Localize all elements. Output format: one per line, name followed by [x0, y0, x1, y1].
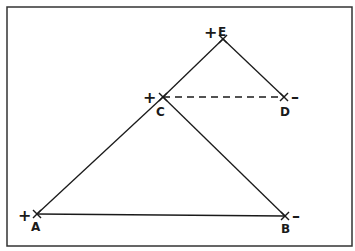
label-b: B [281, 222, 290, 236]
sign-d: – [291, 87, 299, 106]
label-a: A [31, 220, 41, 234]
cross-marker-d [280, 93, 288, 101]
frame-border [7, 7, 352, 246]
segment-a-c [37, 97, 163, 214]
sign-b: – [292, 206, 300, 225]
label-c: C [156, 105, 165, 119]
segment-e-d [223, 39, 284, 97]
sign-a: + [18, 206, 31, 225]
segment-c-e [163, 39, 223, 97]
segment-a-b [37, 214, 285, 216]
sign-c: + [143, 88, 156, 107]
triangle-diagram: A B C D E + – + – + [0, 0, 355, 251]
sign-e: + [204, 23, 217, 42]
segment-c-b [163, 97, 285, 216]
label-d: D [280, 105, 290, 119]
label-e: E [218, 25, 226, 39]
